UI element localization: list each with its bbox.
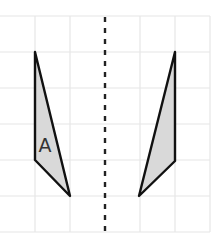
shape-a-label: A <box>39 134 52 156</box>
grid <box>0 16 210 232</box>
reflection-diagram: A <box>0 0 216 234</box>
